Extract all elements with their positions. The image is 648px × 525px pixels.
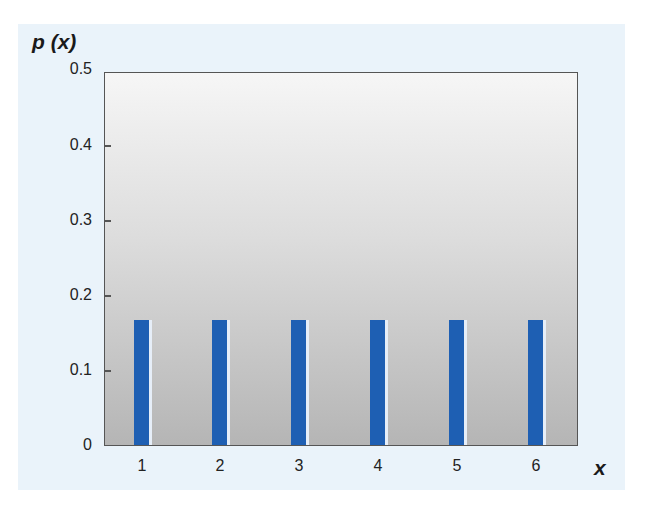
y-tick-mark bbox=[104, 295, 111, 297]
y-tick-label-0.5: 0.5 bbox=[52, 60, 92, 78]
y-tick-label-0.1: 0.1 bbox=[52, 361, 92, 379]
plot-area bbox=[104, 72, 578, 446]
y-tick-label-0.2: 0.2 bbox=[52, 286, 92, 304]
y-tick-label-0: 0 bbox=[52, 436, 92, 454]
y-tick-mark bbox=[104, 220, 111, 222]
y-axis-label: p (x) bbox=[32, 30, 76, 54]
y-tick-label-0.3: 0.3 bbox=[52, 211, 92, 229]
bar-1 bbox=[134, 320, 149, 445]
x-tick-label-5: 5 bbox=[442, 457, 472, 475]
x-tick-label-1: 1 bbox=[127, 457, 157, 475]
bar-3 bbox=[291, 320, 306, 445]
x-tick-label-4: 4 bbox=[363, 457, 393, 475]
y-tick-mark bbox=[104, 145, 111, 147]
y-tick-label-0.4: 0.4 bbox=[52, 136, 92, 154]
bar-2 bbox=[212, 320, 227, 445]
bar-6 bbox=[528, 320, 543, 445]
x-tick-label-3: 3 bbox=[284, 457, 314, 475]
y-tick-mark bbox=[104, 370, 111, 372]
bar-4 bbox=[370, 320, 385, 445]
bar-5 bbox=[449, 320, 464, 445]
x-tick-label-2: 2 bbox=[205, 457, 235, 475]
x-axis-label: x bbox=[594, 456, 606, 480]
x-tick-label-6: 6 bbox=[521, 457, 551, 475]
